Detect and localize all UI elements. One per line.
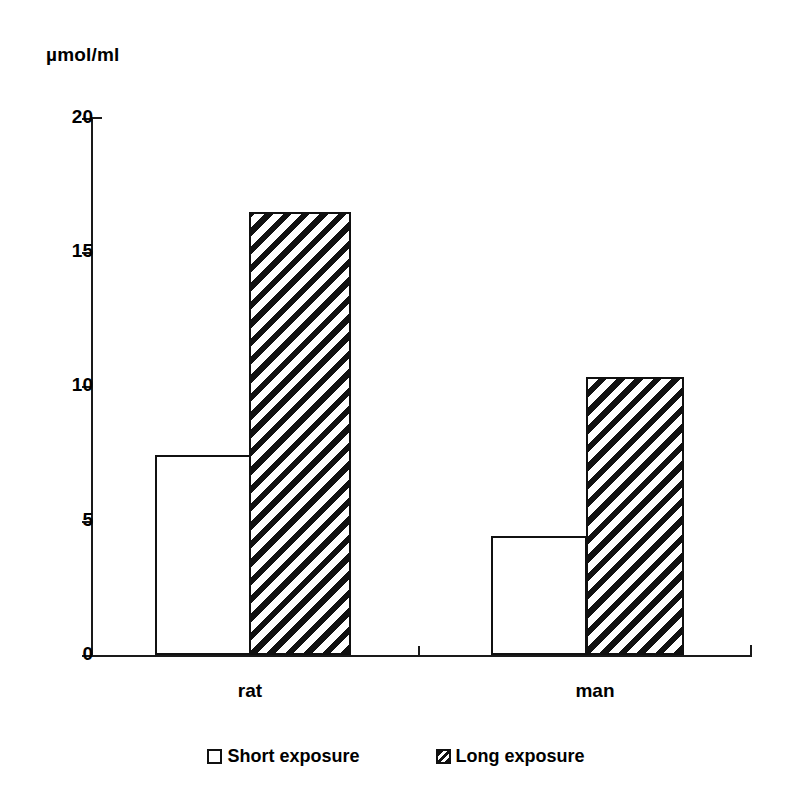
- y-tick-label: 20: [72, 106, 93, 128]
- bar-rat-long-exposure: [249, 212, 351, 655]
- legend-label-long-exposure: Long exposure: [456, 746, 585, 767]
- x-axis-mid-tick: [418, 646, 420, 656]
- bar-man-long-exposure: [586, 377, 684, 655]
- chart-legend: Short exposure Long exposure: [0, 746, 792, 767]
- y-tick-label: 5: [82, 509, 93, 531]
- y-axis-unit-label: µmol/ml: [46, 44, 120, 66]
- x-axis-line: [91, 655, 752, 657]
- bar-rat-short-exposure: [155, 455, 251, 655]
- x-category-label-man: man: [575, 680, 614, 702]
- legend-item-short-exposure: Short exposure: [207, 746, 359, 767]
- bar-man-short-exposure: [491, 536, 587, 655]
- y-tick-label: 15: [72, 240, 93, 262]
- hatched-square-icon: [436, 749, 451, 764]
- legend-item-long-exposure: Long exposure: [436, 746, 585, 767]
- open-square-icon: [207, 749, 222, 764]
- bar-chart-figure: µmol/ml 20 15 10 5 0: [0, 0, 792, 799]
- x-category-label-rat: rat: [238, 680, 262, 702]
- y-tick-label: 0: [82, 643, 93, 665]
- plot-area: 20 15 10 5 0 rat man: [93, 118, 752, 655]
- x-axis-right-cap: [750, 645, 752, 656]
- y-tick-label: 10: [72, 374, 93, 396]
- legend-label-short-exposure: Short exposure: [227, 746, 359, 767]
